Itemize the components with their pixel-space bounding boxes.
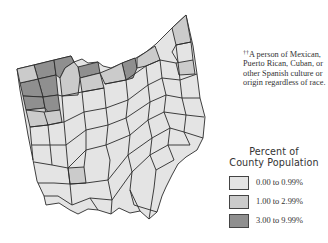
legend-label-mid: 1.00 to 2.99% (256, 197, 303, 206)
footnote-text: A person of Mexican, Puerto Rican, Cuban… (243, 50, 325, 87)
legend-title-line2: County Population (220, 158, 328, 169)
legend-label-high: 3.00 to 9.99% (256, 216, 303, 225)
ohio-county-map (0, 0, 210, 243)
legend-item-high: 3.00 to 9.99% (229, 211, 328, 230)
county-mid (68, 167, 86, 184)
legend-swatch-high (229, 214, 249, 228)
footnote: ††A person of Mexican, Puerto Rican, Cub… (243, 50, 327, 87)
legend-swatch-low (229, 176, 249, 190)
legend-item-low: 0.00 to 0.99% (229, 173, 328, 192)
legend-label-low: 0.00 to 0.99% (256, 178, 303, 187)
legend-title: Percent of County Population (220, 147, 328, 168)
county-mid (172, 15, 191, 45)
legend-swatch-mid (229, 195, 249, 209)
legend-title-line1: Percent of (220, 147, 328, 158)
legend-item-mid: 1.00 to 2.99% (229, 192, 328, 211)
legend: Percent of County Population 0.00 to 0.9… (220, 147, 328, 230)
